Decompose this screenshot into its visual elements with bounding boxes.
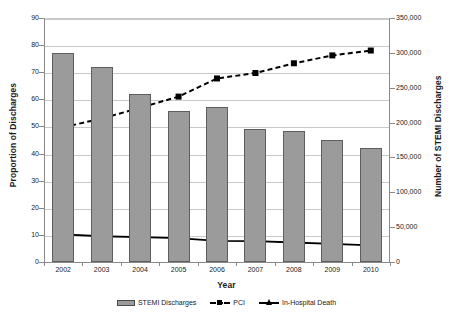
y-axis-right-tick-label: 100,000 (396, 188, 440, 196)
y-axis-left-tick-label: 50 (5, 122, 39, 130)
chart-figure: Proportion of Discharges Number of STEMI… (0, 0, 453, 322)
y-axis-left-tick-mark (39, 154, 44, 155)
series-marker (368, 48, 374, 54)
legend-item-label: In-Hospital Death (282, 299, 336, 306)
x-axis-tick-label: 2006 (197, 266, 237, 273)
y-axis-left-tick-mark (39, 235, 44, 236)
y-axis-left-tick-mark (39, 99, 44, 100)
bar (321, 140, 343, 262)
x-axis-tick-label: 2002 (43, 266, 83, 273)
legend-swatch-line-triangle-icon (259, 299, 279, 306)
legend-item-label: STEMI Discharges (138, 299, 196, 306)
legend-item[interactable]: PCI (210, 299, 245, 306)
y-axis-right-tick-label: 0 (396, 258, 440, 266)
y-axis-left-tick-mark (39, 18, 44, 19)
y-axis-right-tick-mark (390, 192, 395, 193)
y-axis-left-tick-mark (39, 72, 44, 73)
y-axis-left-tick-mark (39, 126, 44, 127)
bar (91, 67, 113, 262)
y-axis-left-ticks: 0102030405060708090 (0, 0, 39, 322)
series-marker (291, 60, 297, 66)
legend-item-label: PCI (233, 299, 245, 306)
y-axis-left-tick-label: 10 (5, 231, 39, 239)
y-axis-right-tick-label: 200,000 (396, 119, 440, 127)
x-axis-tick-mark (198, 262, 199, 266)
bar (52, 53, 74, 262)
legend-swatch-dashed-square-icon (210, 299, 230, 306)
bar (206, 107, 228, 262)
y-axis-left-tick-mark (39, 45, 44, 46)
y-axis-right-tick-mark (390, 53, 395, 54)
series-marker (252, 70, 258, 76)
x-axis-title: Year (0, 280, 453, 290)
bar (244, 129, 266, 262)
x-axis-tick-mark (44, 262, 45, 266)
y-axis-left-tick-label: 30 (5, 177, 39, 185)
y-axis-right-tick-label: 150,000 (396, 153, 440, 161)
legend-item[interactable]: In-Hospital Death (259, 299, 336, 306)
x-axis-tick-mark (390, 262, 391, 266)
series-marker (176, 94, 182, 100)
y-axis-left-tick-label: 0 (5, 258, 39, 266)
x-axis-tick-label: 2005 (159, 266, 199, 273)
y-axis-right-tick-mark (390, 227, 395, 228)
bar (129, 94, 151, 262)
y-axis-right-tick-label: 250,000 (396, 84, 440, 92)
x-axis-tick-label: 2010 (351, 266, 391, 273)
y-axis-left-tick-label: 60 (5, 95, 39, 103)
y-axis-left-tick-mark (39, 208, 44, 209)
series-marker (329, 52, 335, 58)
x-axis-tick-mark (159, 262, 160, 266)
x-axis-tick-label: 2004 (120, 266, 160, 273)
series-marker (214, 75, 220, 81)
y-axis-left-tick-label: 40 (5, 150, 39, 158)
x-axis-tick-label: 2007 (235, 266, 275, 273)
y-axis-right-tick-mark (390, 88, 395, 89)
x-axis-tick-mark (82, 262, 83, 266)
legend-item[interactable]: STEMI Discharges (117, 299, 196, 306)
y-axis-right-tick-mark (390, 123, 395, 124)
y-axis-left-tick-label: 90 (5, 14, 39, 22)
y-axis-right-tick-mark (390, 18, 395, 19)
y-axis-right-tick-label: 350,000 (396, 14, 440, 22)
y-axis-right-tick-mark (390, 157, 395, 158)
y-axis-left-tick-mark (39, 181, 44, 182)
y-axis-right-tick-label: 50,000 (396, 223, 440, 231)
bar (360, 148, 382, 262)
legend-swatch-bar-icon (117, 300, 135, 306)
x-axis-tick-mark (352, 262, 353, 266)
x-axis-tick-label: 2009 (312, 266, 352, 273)
y-axis-left-tick-label: 70 (5, 68, 39, 76)
bar (168, 111, 190, 262)
y-axis-right-ticks: 050,000100,000150,000200,000250,000300,0… (396, 0, 446, 322)
x-axis-tick-mark (121, 262, 122, 266)
x-axis-tick-mark (275, 262, 276, 266)
chart-legend: STEMI DischargesPCIIn-Hospital Death (0, 299, 453, 306)
y-axis-left-tick-label: 80 (5, 41, 39, 49)
x-axis-line (44, 262, 390, 263)
x-axis-tick-label: 2008 (274, 266, 314, 273)
y-axis-left-tick-label: 20 (5, 204, 39, 212)
y-axis-right-tick-label: 300,000 (396, 49, 440, 57)
bar (283, 131, 305, 262)
x-axis-tick-mark (313, 262, 314, 266)
x-axis-tick-label: 2003 (82, 266, 122, 273)
x-axis-tick-mark (236, 262, 237, 266)
